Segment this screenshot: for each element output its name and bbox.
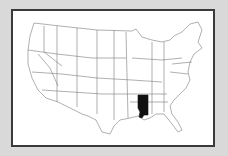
us-outline (28, 22, 202, 134)
state-mississippi (138, 95, 148, 118)
us-map (13, 11, 213, 145)
map-frame (11, 9, 215, 147)
